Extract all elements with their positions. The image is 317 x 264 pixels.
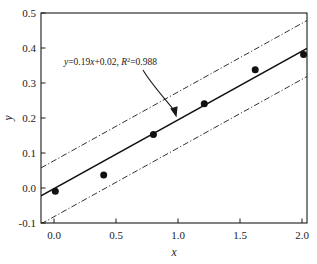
y-tick-label: 0.2 <box>22 112 36 124</box>
x-tick-label: 1.0 <box>171 229 185 241</box>
data-point <box>100 172 107 179</box>
data-point <box>300 51 307 58</box>
fit-equation-annotation: y=0.19x+0.02, R2=0.988 <box>63 56 157 68</box>
y-tick-label: 0.4 <box>22 42 36 54</box>
eq-intercept-part: +0.02, <box>94 57 121 67</box>
x-tick-label: 1.5 <box>233 229 247 241</box>
x-tick-label: 0.5 <box>109 229 123 241</box>
data-point <box>201 100 208 107</box>
figure-background <box>0 0 317 264</box>
scatter-plot: 0.5 0.4 0.3 0.2 0.1 0.0 -0.1 0.0 0.5 1.0… <box>0 0 317 264</box>
data-point <box>150 131 157 138</box>
chart-figure: 0.5 0.4 0.3 0.2 0.1 0.0 -0.1 0.0 0.5 1.0… <box>0 0 317 264</box>
y-tick-label: 0.1 <box>22 147 36 159</box>
x-tick-label: 0.0 <box>47 229 61 241</box>
data-point <box>252 66 259 73</box>
y-tick-label: 0.3 <box>22 77 36 89</box>
y-tick-label: 0.5 <box>22 7 36 19</box>
eq-rsquared-value: =0.988 <box>130 57 157 67</box>
y-tick-label: -0.1 <box>19 217 36 229</box>
y-tick-label: 0.0 <box>22 182 36 194</box>
y-axis-title: y <box>2 115 15 122</box>
eq-slope-part: =0.19 <box>68 57 90 67</box>
x-axis-title: x <box>170 246 177 258</box>
x-tick-label: 2.0 <box>295 229 309 241</box>
data-point <box>52 188 59 195</box>
